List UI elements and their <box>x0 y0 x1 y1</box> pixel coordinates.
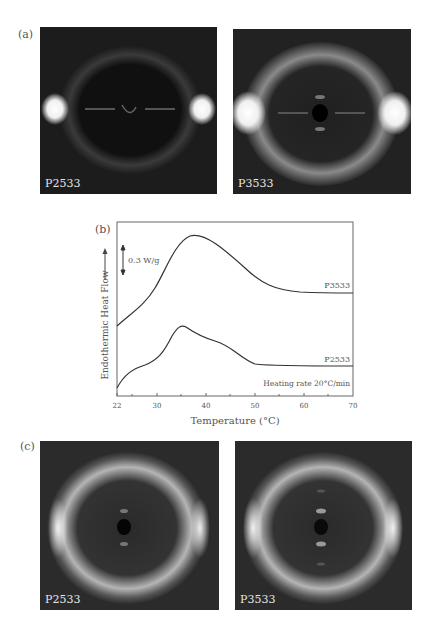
image-caption: P3533 <box>240 593 275 606</box>
curve-label-p2533: P2533 <box>324 355 350 364</box>
svg-text:50: 50 <box>251 402 260 410</box>
dsc-chart: (b) 22 30 40 50 60 70 Temperature (°C) E… <box>0 0 435 440</box>
svg-text:70: 70 <box>349 402 358 410</box>
panel-c-label: (c) <box>20 440 35 453</box>
x-axis-tick-labels: 22 30 40 50 60 70 <box>113 402 358 410</box>
plot-frame <box>117 222 353 396</box>
curve-p3533 <box>117 235 353 326</box>
saxs-image-c-p2533: P2533 <box>40 441 219 610</box>
svg-text:40: 40 <box>202 402 211 410</box>
x-axis-label: Temperature (°C) <box>190 415 279 426</box>
curve-label-p3533: P3533 <box>324 281 350 290</box>
heating-rate-annotation: Heating rate 20°C/min <box>263 379 350 388</box>
svg-text:22: 22 <box>113 402 122 410</box>
y-axis-label: Endothermic Heat Flow <box>100 270 110 379</box>
saxs-image-c-p3533: P3533 <box>235 441 412 610</box>
image-caption: P2533 <box>45 593 80 606</box>
scale-bar-label: 0.3 W/g <box>128 256 159 265</box>
svg-text:60: 60 <box>300 402 309 410</box>
panel-b-label: (b) <box>95 223 111 236</box>
svg-text:30: 30 <box>153 402 162 410</box>
scale-bar-icon <box>121 245 125 275</box>
